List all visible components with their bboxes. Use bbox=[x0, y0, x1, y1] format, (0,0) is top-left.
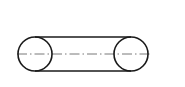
belt-drive-diagram bbox=[0, 0, 185, 87]
diagram-canvas bbox=[0, 0, 185, 87]
